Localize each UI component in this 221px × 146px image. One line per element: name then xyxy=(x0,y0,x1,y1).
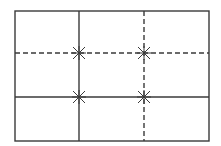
outer-frame xyxy=(15,11,209,141)
asterisk-marker-icon xyxy=(72,90,86,104)
asterisk-marker-icon xyxy=(72,46,86,60)
thirds-grid-diagram xyxy=(0,0,221,146)
asterisk-marker-icon xyxy=(137,46,151,60)
solid-grid-lines xyxy=(15,11,209,141)
dashed-grid-lines xyxy=(15,11,209,141)
intersection-markers xyxy=(72,46,151,104)
asterisk-marker-icon xyxy=(137,90,151,104)
